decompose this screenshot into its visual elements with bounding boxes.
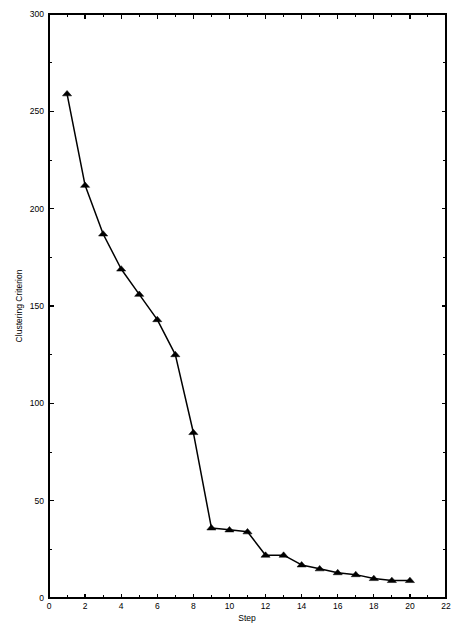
- x-axis-title: Step: [238, 613, 256, 623]
- x-tick-label: 6: [155, 601, 160, 611]
- x-tick-label: 20: [405, 601, 415, 611]
- y-tick-label: 250: [30, 106, 44, 116]
- chart-canvas: 0246810121416182022 050100150200250300 S…: [0, 0, 460, 632]
- y-tick-label: 0: [39, 593, 44, 603]
- x-tick-label: 10: [225, 601, 235, 611]
- y-tick-label: 100: [30, 398, 44, 408]
- x-tick-label: 18: [369, 601, 379, 611]
- x-tick-label: 14: [297, 601, 307, 611]
- x-tick-label: 4: [119, 601, 124, 611]
- x-tick-label: 8: [191, 601, 196, 611]
- x-tick-label: 2: [83, 601, 88, 611]
- y-tick-label: 150: [30, 301, 44, 311]
- y-tick-label: 50: [35, 496, 45, 506]
- y-tick-label: 200: [30, 204, 44, 214]
- x-tick-label: 16: [333, 601, 343, 611]
- clustering-criterion-chart: 0246810121416182022 050100150200250300 S…: [0, 0, 460, 632]
- x-tick-label: 22: [441, 601, 451, 611]
- y-tick-label: 300: [30, 9, 44, 19]
- x-tick-label: 0: [47, 601, 52, 611]
- x-tick-label: 12: [261, 601, 271, 611]
- y-axis-title: Clustering Criterion: [14, 269, 24, 342]
